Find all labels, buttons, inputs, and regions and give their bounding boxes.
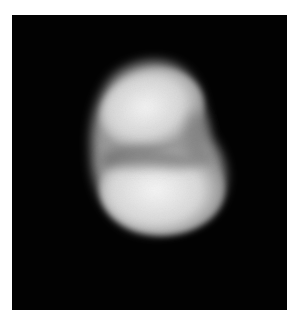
image-frame <box>12 15 287 310</box>
bilobed-body-image <box>12 15 287 310</box>
